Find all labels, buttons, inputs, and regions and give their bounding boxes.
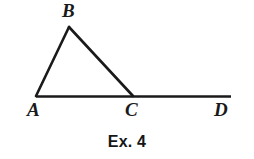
vertex-label-d: D bbox=[214, 100, 228, 119]
geometry-figure: A B C D Ex. 4 bbox=[0, 0, 254, 159]
segment-ab bbox=[36, 27, 69, 96]
segment-bc bbox=[69, 27, 133, 96]
vertex-label-a: A bbox=[27, 100, 40, 119]
figure-caption: Ex. 4 bbox=[0, 133, 254, 151]
vertex-label-c: C bbox=[125, 100, 138, 119]
vertex-label-b: B bbox=[62, 1, 75, 20]
